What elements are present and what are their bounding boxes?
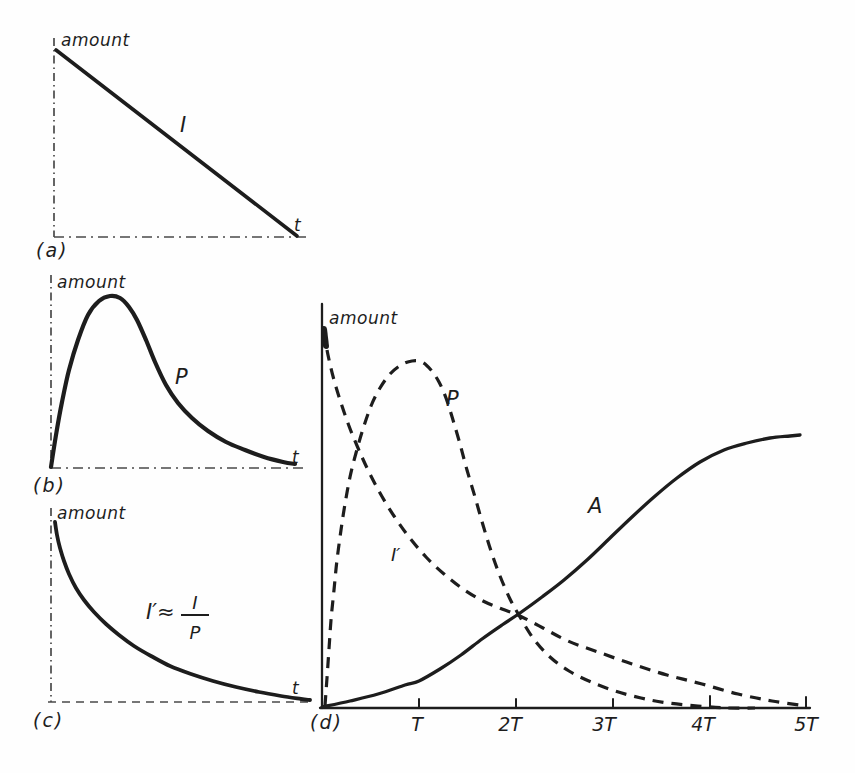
curve-I (56, 50, 297, 236)
fraction-denominator: P (190, 622, 201, 643)
xtick-label-2T: 2T (498, 713, 523, 735)
panel-d-curve-label-A: A (586, 494, 602, 518)
panel-c-ylabel: amount (57, 503, 126, 523)
panel-d-xtick-labels: T 2T 3T 4T 5T (411, 713, 819, 735)
curve-I-prime (55, 522, 310, 700)
curve-A (322, 435, 800, 707)
xtick-label-3T: 3T (592, 713, 617, 735)
panel-d: amount I′ P A (d) T 2T 3T 4T 5T (310, 304, 819, 735)
panel-a-curves (54, 38, 308, 237)
panel-d-ylabel: amount (329, 308, 398, 328)
curve-I-prime (324, 331, 806, 706)
panel-c: amount I′≈ I P t (c) (33, 503, 310, 731)
panel-b: amount P t (b) (33, 272, 306, 496)
panel-b-ylabel: amount (57, 272, 126, 292)
panel-d-curve-label-P: P (446, 387, 459, 411)
panel-a: amount I t (a) (36, 30, 308, 261)
panel-d-curves (320, 304, 810, 708)
panel-b-curve-label-P: P (175, 365, 188, 389)
panel-c-caption: (c) (33, 709, 64, 731)
panel-b-xlabel: t (292, 447, 300, 467)
xtick-label-4T: 4T (691, 713, 716, 735)
panel-a-ylabel: amount (61, 30, 130, 50)
panel-a-xlabel: t (294, 215, 302, 235)
panel-d-curve-label-I-prime: I′ (391, 544, 400, 565)
figure-canvas: amount I t (a) amount P t (b) amount I′≈… (0, 0, 855, 773)
curve-P (325, 361, 755, 708)
fraction-numerator: I (192, 592, 197, 613)
xtick-label-T: T (411, 713, 424, 735)
panel-c-curves (48, 508, 310, 702)
panel-c-xlabel: t (292, 678, 300, 698)
panel-b-caption: (b) (33, 474, 66, 496)
panel-a-curve-label-I: I (180, 113, 186, 137)
panel-a-caption: (a) (36, 239, 68, 261)
curve-P (51, 296, 295, 467)
figure-scan: amount I t (a) amount P t (b) amount I′≈… (0, 0, 855, 773)
expression-prefix: I′≈ (146, 600, 175, 624)
xtick-label-5T: 5T (794, 713, 819, 735)
panel-d-caption: (d) (310, 711, 343, 733)
panel-c-expression: I′≈ I P (146, 592, 209, 643)
